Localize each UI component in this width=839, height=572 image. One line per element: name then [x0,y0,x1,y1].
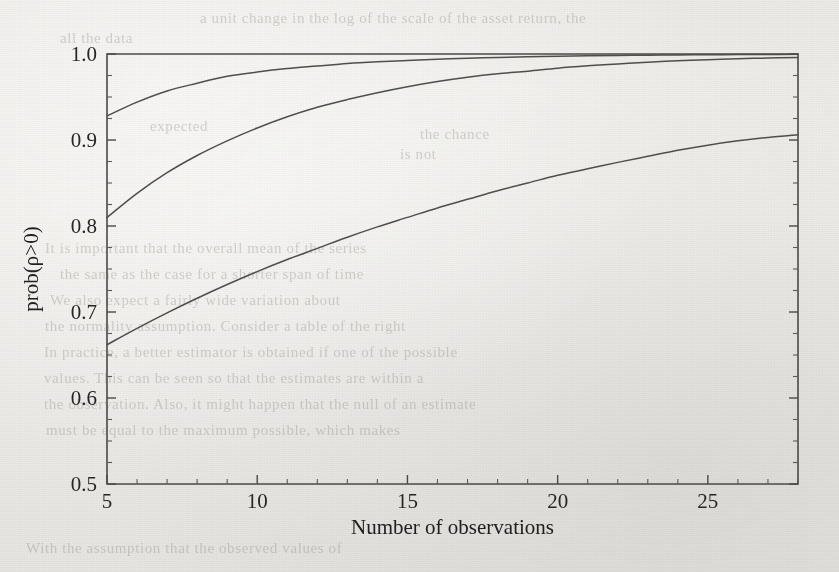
x-tick-label: 25 [697,489,718,513]
y-axis-tick-labels: 0.50.60.70.80.91.0 [71,42,97,496]
y-axis-major-ticks [107,54,798,484]
y-tick-label: 0.9 [71,128,97,152]
curve-upper-curve [107,54,798,116]
x-tick-label: 15 [397,489,418,513]
curve-middle-curve [107,57,798,217]
y-tick-label: 0.6 [71,386,97,410]
y-axis-title: prob(ρ>0) [19,226,43,311]
figure-panel: 510152025 0.50.60.70.80.91.0 Number of o… [0,0,839,572]
x-tick-label: 20 [547,489,568,513]
y-tick-label: 0.8 [71,214,97,238]
plot-frame [107,54,798,484]
x-axis-tick-labels: 510152025 [102,489,719,513]
x-axis-title: Number of observations [351,515,554,539]
y-tick-label: 0.5 [71,472,97,496]
data-curves [107,54,798,344]
y-tick-label: 1.0 [71,42,97,66]
y-axis-minor-ticks [107,76,798,463]
x-tick-label: 10 [247,489,268,513]
line-chart: 510152025 0.50.60.70.80.91.0 Number of o… [0,0,839,572]
x-tick-label: 5 [102,489,113,513]
curve-lower-curve [107,135,798,345]
y-tick-label: 0.7 [71,300,97,324]
